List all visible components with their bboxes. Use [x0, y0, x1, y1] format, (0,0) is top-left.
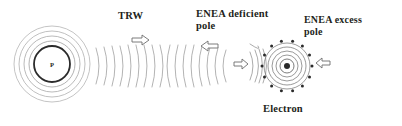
enea-excess-pole-label: ENEA excess pole — [304, 14, 384, 37]
electron-nucleus — [284, 63, 290, 69]
electron-group — [261, 40, 314, 93]
enea-deficient-pole-label: ENEA deficient pole — [196, 8, 282, 32]
outgoing-wave-field — [96, 45, 163, 87]
proton-symbol-label: P — [50, 61, 54, 68]
electron-label: Electron — [263, 103, 303, 115]
wave-into-electron-arrow — [234, 59, 248, 69]
physics-diagram: P — [0, 0, 402, 126]
excess-pole-arrow — [316, 58, 330, 68]
trw-direction-arrow — [132, 35, 149, 45]
trw-label: TRW — [118, 10, 143, 22]
proton-group: P — [14, 26, 90, 102]
incoming-wave-field — [167, 45, 226, 87]
